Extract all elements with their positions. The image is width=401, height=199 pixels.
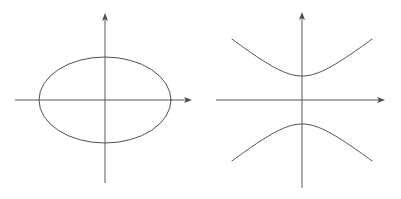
hyperbola-x-axis <box>216 97 385 103</box>
figure-canvas <box>0 0 401 199</box>
ellipse-diagram <box>15 13 192 183</box>
conic-sections-figure <box>0 0 401 199</box>
ellipse-x-axis <box>15 97 192 103</box>
hyperbola-diagram <box>216 12 385 188</box>
ellipse-y-axis <box>102 13 108 183</box>
